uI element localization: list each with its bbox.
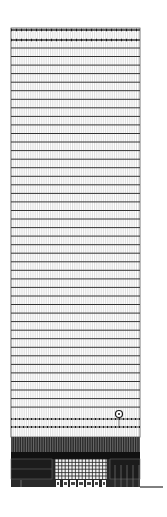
podium-band	[11, 452, 140, 459]
entrance-door-pane	[103, 482, 105, 485]
tower-outline	[11, 28, 140, 437]
entrance-door-pane	[87, 482, 91, 485]
entrance-door-pane	[64, 482, 67, 485]
curtain-wall-mullions	[11, 28, 139, 437]
building-elevation-drawing	[0, 0, 167, 517]
entrance-door-pane	[95, 482, 98, 485]
entrance-door-pane	[57, 482, 59, 485]
clock-symbol-center	[118, 413, 120, 415]
entrance-door-pane	[71, 482, 75, 485]
entrance-door-pane	[79, 482, 83, 485]
podium-right-panel	[110, 459, 140, 479]
